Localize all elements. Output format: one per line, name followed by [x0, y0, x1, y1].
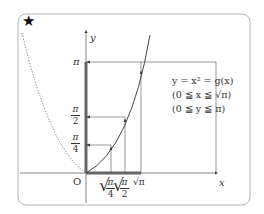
equation-range: (0 ≦ y ≦ π): [172, 102, 233, 116]
origin-label: O: [73, 177, 81, 187]
x-axis-arrow-icon: [215, 172, 218, 175]
x-tick-sqrt-pi-over-2: π 2: [120, 178, 129, 199]
y-tick-pi-over-4: π 4: [71, 133, 80, 154]
equation-domain: (0 ≦ x ≦ √π): [172, 88, 233, 102]
equation-block: y = x² = g(x) (0 ≦ x ≦ √π) (0 ≦ y ≦ π): [172, 74, 233, 116]
y-tick-pi-over-2: π 2: [71, 105, 80, 126]
star-icon: ★: [22, 14, 35, 29]
equation-function: y = x² = g(x): [172, 74, 233, 88]
y-axis-label: y: [90, 33, 96, 43]
x-axis-label: x: [219, 178, 225, 188]
x-tick-sqrt-pi: √π: [133, 178, 145, 187]
y-tick-pi: π: [73, 57, 80, 67]
parabola-curve: [86, 35, 150, 173]
y-axis-arrow-icon: [85, 30, 88, 33]
